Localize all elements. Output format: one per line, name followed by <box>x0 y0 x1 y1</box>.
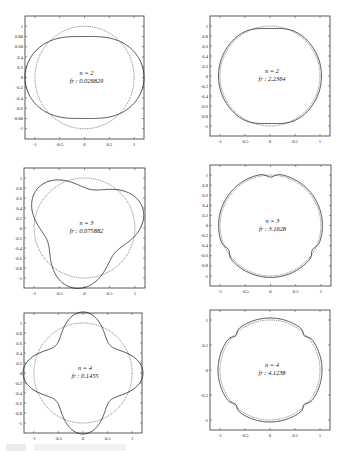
x-tick-label: 0.5 <box>293 289 299 294</box>
x-tick-label: 0.5 <box>106 142 112 147</box>
mode-shape-curve <box>32 180 144 289</box>
chart-panel-middle-left: -1-0.500.5110.80.60.40.20-0.2-0.4-0.6-0.… <box>15 168 145 296</box>
y-tick-label: 0.60 <box>15 44 24 49</box>
y-tick-label: -0.4 <box>201 243 209 248</box>
frequency-label: fr : 0.075882 <box>70 227 104 234</box>
y-tick-label: 1 <box>206 24 209 29</box>
y-tick-label: -1 <box>204 124 209 129</box>
frequency-label: fr : 3.1628 <box>259 225 287 232</box>
y-tick-label: 1 <box>206 318 209 323</box>
y-tick-label: 0.2 <box>16 216 22 221</box>
chart-panel-bottom-left: -1-0.500.5110.80.60.40.20-0.2-0.4-0.6-0.… <box>15 312 143 441</box>
x-tick-label: -0.5 <box>241 139 249 144</box>
y-tick-label: 0.8 <box>202 34 208 39</box>
x-tick-label: -1 <box>218 289 223 294</box>
x-tick-label: 1 <box>320 289 323 294</box>
y-tick-label: -0.4 <box>15 391 23 396</box>
y-tick-label: 0 <box>21 75 24 80</box>
y-tick-label: 0.6 <box>202 44 208 49</box>
y-tick-label: -1 <box>19 126 24 131</box>
y-tick-label: -0.4 <box>201 94 209 99</box>
y-tick-label: 0 <box>20 226 23 231</box>
y-tick-label: -0.5 <box>201 393 209 398</box>
y-tick-label: -0.2 <box>15 236 23 241</box>
y-tick-label: -0.6 <box>201 253 209 258</box>
mode-number-label: n = 2 <box>265 67 280 74</box>
y-tick-label: -0.4 <box>15 246 23 251</box>
frequency-label: fr : 2.2364 <box>258 75 286 82</box>
x-tick-label: -0.5 <box>56 291 64 296</box>
y-tick-label: 1 <box>206 173 209 178</box>
y-tick-label: 0.2 <box>17 65 23 70</box>
y-tick-label: 0 <box>206 368 209 373</box>
x-tick-label: 1 <box>131 436 134 441</box>
mode-number-label: n = 4 <box>78 364 93 371</box>
y-tick-label: 0.4 <box>16 351 22 356</box>
y-tick-label: 1 <box>21 24 24 29</box>
y-tick-label: 0.4 <box>17 55 23 60</box>
y-tick-label: -0.4 <box>16 96 24 101</box>
y-tick-label: 0.5 <box>202 343 208 348</box>
x-tick-label: 1 <box>319 433 322 438</box>
chart-panel-middle-right: -1-0.500.5110.80.60.40.20-0.2-0.4-0.6-0.… <box>201 165 331 294</box>
y-tick-label: 0 <box>206 74 209 79</box>
x-tick-label: -1 <box>32 291 37 296</box>
y-tick-label: -0.2 <box>15 381 23 386</box>
figure-caption-faint <box>6 444 206 451</box>
mode-number-label: n = 4 <box>265 361 280 368</box>
x-tick-label: -0.5 <box>55 436 63 441</box>
x-tick-label: 0 <box>269 433 272 438</box>
y-tick-label: -1 <box>204 418 209 423</box>
x-tick-label: -1 <box>218 139 223 144</box>
y-tick-label: 1 <box>20 321 23 326</box>
y-tick-label: 0.6 <box>202 193 208 198</box>
mode-number-label: n = 3 <box>266 217 280 224</box>
y-tick-label: -0.6 <box>16 106 24 111</box>
x-tick-label: -1 <box>218 433 223 438</box>
y-tick-label: 0.4 <box>202 54 208 59</box>
y-tick-label: -0.6 <box>15 401 23 406</box>
x-tick-label: -0.5 <box>56 142 64 147</box>
frequency-label: fr : 4.1238 <box>258 369 286 376</box>
y-tick-label: 0.4 <box>202 203 208 208</box>
mode-number-label: n = 3 <box>80 219 94 226</box>
x-tick-label: 0 <box>82 436 85 441</box>
x-tick-label: 0 <box>83 291 86 296</box>
chart-panel-top-left: -1-0.500.5110.800.600.40.20-0.2-0.4-0.6-… <box>13 16 144 147</box>
y-tick-label: -1 <box>204 274 209 279</box>
y-tick-label: 0.2 <box>16 361 22 366</box>
y-tick-label: 0.6 <box>16 341 22 346</box>
x-tick-label: 0.5 <box>105 436 111 441</box>
x-tick-label: 0 <box>269 139 272 144</box>
x-tick-label: 1 <box>319 139 322 144</box>
x-tick-label: 0.5 <box>107 291 113 296</box>
y-tick-label: 0.2 <box>202 213 208 218</box>
y-tick-label: 0.2 <box>202 64 208 69</box>
y-tick-label: -0.8 <box>201 114 209 119</box>
chart-panel-bottom-right: -1-0.500.5110.50-0.5-1n = 4fr : 4.1238 <box>201 310 330 438</box>
chart-panel-top-right: -1-0.500.5110.80.60.40.20-0.2-0.4-0.6-0.… <box>201 16 330 144</box>
x-tick-label: -0.5 <box>241 433 249 438</box>
y-tick-label: 0.8 <box>16 186 22 191</box>
x-tick-label: -1 <box>32 436 37 441</box>
y-tick-label: 0.4 <box>16 206 22 211</box>
y-tick-label: -0.8 <box>15 411 23 416</box>
y-tick-label: -0.2 <box>201 84 209 89</box>
y-tick-label: 0 <box>20 371 23 376</box>
x-tick-label: -0.5 <box>242 289 250 294</box>
x-tick-label: -1 <box>33 142 38 147</box>
mode-shape-figure: -1-0.500.5110.800.600.40.20-0.2-0.4-0.6-… <box>0 0 345 454</box>
x-tick-label: 0 <box>269 289 272 294</box>
y-tick-label: 1 <box>20 176 23 181</box>
y-tick-label: -0.2 <box>201 233 209 238</box>
x-tick-label: 1 <box>134 291 137 296</box>
y-tick-label: 0.8 <box>16 331 22 336</box>
y-tick-label: -0.80 <box>13 116 23 121</box>
y-tick-label: -0.2 <box>16 85 24 90</box>
y-tick-label: -1 <box>18 421 23 426</box>
y-tick-label: -0.6 <box>201 104 209 109</box>
x-tick-label: 0 <box>83 142 86 147</box>
frequency-label: fr : 0.026829 <box>70 77 104 84</box>
y-tick-label: -0.8 <box>15 266 23 271</box>
y-tick-label: -1 <box>18 276 23 281</box>
